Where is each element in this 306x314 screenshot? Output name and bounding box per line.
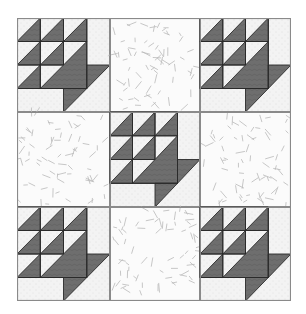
- basket-block: [110, 112, 200, 207]
- quilt-graphic: [17, 18, 291, 301]
- plain-block: [17, 108, 110, 207]
- plain-block: [110, 206, 203, 301]
- basket-block: [17, 207, 110, 301]
- plain-block: [109, 18, 200, 112]
- plain-block: [200, 112, 291, 209]
- quilt-pattern: [17, 18, 291, 301]
- basket-block: [200, 207, 291, 301]
- basket-block: [17, 18, 110, 112]
- basket-block: [200, 18, 291, 112]
